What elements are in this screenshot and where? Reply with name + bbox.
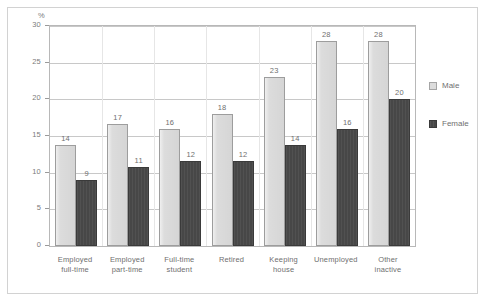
legend-swatch-female-icon: [429, 120, 437, 128]
y-tick-label: 20: [11, 94, 41, 102]
x-category-label: Keepinghouse: [254, 255, 314, 274]
y-tick-label: 30: [11, 21, 41, 29]
category-separator: [311, 26, 312, 246]
bar-group: 2816: [316, 26, 358, 246]
bar-female[interactable]: [389, 99, 410, 246]
x-category-line: Keeping: [254, 255, 314, 265]
bar-male[interactable]: [159, 129, 180, 246]
bar-female[interactable]: [180, 161, 201, 246]
y-tick-label: 25: [11, 58, 41, 66]
bar-group: 2314: [264, 26, 306, 246]
bar-value-label: 28: [363, 31, 393, 39]
legend-label-male: Male: [442, 81, 459, 91]
bar-value-label: 14: [51, 135, 81, 143]
x-category-line: student: [149, 265, 209, 275]
bar-value-label: 11: [124, 157, 154, 165]
bar-group: 1812: [212, 26, 254, 246]
bar-male[interactable]: [212, 114, 233, 246]
x-category-line: Unemployed: [306, 255, 366, 265]
bar-female[interactable]: [76, 180, 97, 246]
bar-value-label: 14: [280, 135, 310, 143]
legend-label-female: Female: [442, 119, 469, 129]
x-category-line: Employed: [45, 255, 105, 265]
bar-value-label: 20: [384, 89, 414, 97]
bar-value-label: 12: [228, 151, 258, 159]
bar-value-label: 16: [332, 119, 362, 127]
x-category-line: Retired: [202, 255, 262, 265]
x-category-label: Employedfull-time: [45, 255, 105, 274]
x-category-line: house: [254, 265, 314, 275]
y-tick-label: 10: [11, 168, 41, 176]
y-tick-label: 0: [11, 241, 41, 249]
chart-legend: Male Female: [429, 81, 481, 157]
bar-value-label: 23: [259, 67, 289, 75]
y-tick-label: 5: [11, 204, 41, 212]
x-category-line: part-time: [97, 265, 157, 275]
bar-male[interactable]: [264, 77, 285, 246]
x-category-line: Employed: [97, 255, 157, 265]
category-separator: [206, 26, 207, 246]
bar-value-label: 12: [176, 151, 206, 159]
bar-value-label: 28: [311, 31, 341, 39]
bar-value-label: 18: [207, 104, 237, 112]
x-category-label: Full-timestudent: [149, 255, 209, 274]
bar-female[interactable]: [285, 145, 306, 246]
bar-value-label: 9: [72, 170, 102, 178]
category-separator: [154, 26, 155, 246]
y-axis-title: %: [38, 11, 45, 20]
bar-group: 1711: [107, 26, 149, 246]
x-category-label: Retired: [202, 255, 262, 265]
x-category-line: Full-time: [149, 255, 209, 265]
x-category-label: Unemployed: [306, 255, 366, 265]
bar-female[interactable]: [128, 167, 149, 246]
category-separator: [102, 26, 103, 246]
category-separator: [363, 26, 364, 246]
bar-male[interactable]: [55, 145, 76, 246]
bar-group: 1612: [159, 26, 201, 246]
legend-swatch-male-icon: [429, 82, 437, 90]
bar-male[interactable]: [368, 41, 389, 246]
bar-male[interactable]: [316, 41, 337, 246]
x-category-line: Other: [358, 255, 418, 265]
bar-value-label: 17: [103, 114, 133, 122]
bar-male[interactable]: [107, 124, 128, 246]
bar-female[interactable]: [233, 161, 254, 246]
chart-figure: % 051015202530 1491711161218122314281628…: [7, 7, 478, 294]
x-category-line: inactive: [358, 265, 418, 275]
plot-area: 149171116121812231428162820: [49, 25, 416, 247]
bar-value-label: 16: [155, 119, 185, 127]
legend-item-male[interactable]: Male: [429, 81, 481, 91]
x-category-label: Otherinactive: [358, 255, 418, 274]
legend-item-female[interactable]: Female: [429, 119, 481, 129]
bar-group: 149: [55, 26, 97, 246]
y-tick-label: 15: [11, 131, 41, 139]
x-category-line: full-time: [45, 265, 105, 275]
bar-female[interactable]: [337, 129, 358, 246]
x-category-label: Employedpart-time: [97, 255, 157, 274]
bar-group: 2820: [368, 26, 410, 246]
category-separator: [259, 26, 260, 246]
